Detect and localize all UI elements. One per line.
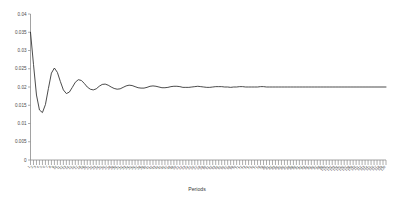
y-tick-label: 0.025 — [15, 66, 27, 71]
y-tick-label: 0.035 — [15, 30, 27, 35]
impulse-response-plot: 00.0050.010.0150.020.0250.030.0350.04 12… — [0, 0, 394, 197]
x-axis-group: 1234567891011121314151617181920212223242… — [27, 160, 387, 172]
chart-container: 00.0050.010.0150.020.0250.030.0350.04 12… — [0, 0, 394, 197]
x-axis-title: Periods — [188, 186, 206, 192]
series-line-response — [31, 32, 387, 112]
y-axis-tick-labels: 00.0050.010.0150.020.0250.030.0350.04 — [15, 12, 27, 163]
y-tick-label: 0.02 — [18, 85, 27, 90]
y-tick-label: 0.01 — [18, 121, 27, 126]
y-tick-label: 0.04 — [18, 12, 27, 17]
y-tick-label: 0.005 — [15, 139, 27, 144]
y-axis-group: 00.0050.010.0150.020.0250.030.0350.04 — [15, 12, 31, 163]
x-axis-ticks — [31, 160, 387, 165]
series-group — [31, 32, 387, 112]
y-tick-label: 0 — [24, 158, 27, 163]
y-tick-label: 0.03 — [18, 48, 27, 53]
x-axis-tick-labels: 1234567891011121314151617181920212223242… — [27, 165, 387, 172]
y-tick-label: 0.015 — [15, 103, 27, 108]
